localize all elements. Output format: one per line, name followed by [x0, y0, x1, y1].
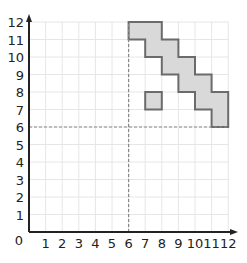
origin-label: 0	[15, 233, 23, 248]
y-tick-label: 1	[16, 208, 24, 223]
x-tick-label: 8	[158, 236, 166, 251]
y-tick-label: 6	[16, 120, 24, 135]
y-tick-label: 4	[16, 155, 24, 170]
x-tick-label: 5	[108, 236, 116, 251]
x-axis-arrow-icon	[230, 229, 238, 235]
y-tick-label: 12	[7, 15, 24, 30]
x-tick-label: 3	[75, 236, 83, 251]
x-tick-label: 6	[124, 236, 132, 251]
y-tick-label: 3	[16, 173, 24, 188]
y-tick-label: 10	[7, 50, 24, 65]
tick-labels: 0123456789101112123456789101112	[7, 15, 236, 251]
x-tick-label: 9	[174, 236, 182, 251]
x-tick-label: 7	[141, 236, 149, 251]
y-axis-arrow-icon	[26, 14, 32, 22]
coordinate-grid-diagram: 0123456789101112123456789101112	[0, 0, 247, 263]
y-tick-label: 7	[16, 103, 24, 118]
x-tick-label: 2	[58, 236, 66, 251]
y-tick-label: 11	[7, 33, 24, 48]
x-tick-label: 10	[187, 236, 204, 251]
small-square	[145, 92, 162, 110]
x-tick-label: 12	[220, 236, 237, 251]
y-tick-label: 8	[16, 85, 24, 100]
y-tick-label: 5	[16, 138, 24, 153]
x-tick-label: 4	[91, 236, 99, 251]
x-tick-label: 11	[203, 236, 220, 251]
y-tick-label: 2	[16, 190, 24, 205]
axes	[26, 14, 238, 235]
x-tick-label: 1	[41, 236, 49, 251]
y-tick-label: 9	[16, 68, 24, 83]
